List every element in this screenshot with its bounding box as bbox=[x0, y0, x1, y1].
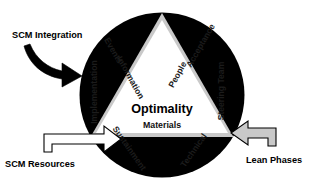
scm-integration-callout: SCM Integration bbox=[12, 30, 83, 87]
ring-label-implementation-text: Implementation bbox=[89, 60, 99, 124]
scm-resources-label: SCM Resources bbox=[5, 159, 75, 169]
optimality-triangle-diagram: Events Acceptance Steering Team Technica… bbox=[0, 0, 313, 188]
ring-label-steering-team-text: Steering Team bbox=[216, 61, 226, 120]
scm-resources-callout: SCM Resources bbox=[5, 126, 121, 169]
lean-phases-label: Lean Phases bbox=[246, 155, 302, 165]
diagram-canvas: Events Acceptance Steering Team Technica… bbox=[0, 0, 313, 188]
lean-phases-callout: Lean Phases bbox=[231, 121, 302, 165]
scm-resources-arrow-icon bbox=[44, 126, 121, 152]
ring-label-steering-team: Steering Team bbox=[216, 61, 226, 120]
center-secondary-label: Materials bbox=[143, 120, 181, 130]
center-primary-label: Optimality bbox=[131, 102, 193, 116]
scm-integration-label: SCM Integration bbox=[12, 30, 83, 40]
ring-label-implementation: Implementation bbox=[89, 60, 99, 124]
scm-integration-arrow-icon bbox=[24, 44, 82, 87]
